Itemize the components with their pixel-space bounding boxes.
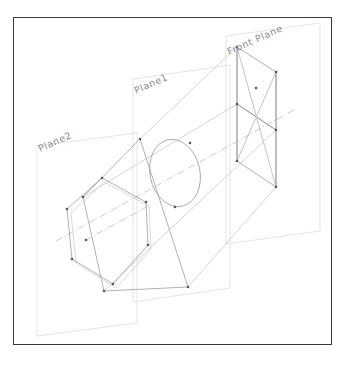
vertex-dot — [139, 138, 142, 141]
projection-ray-bottom — [188, 187, 276, 287]
vertex-dot — [71, 258, 74, 261]
vertex-dot — [174, 206, 177, 209]
tilted-quad-outline[interactable] — [83, 139, 188, 291]
vertex-dot — [236, 160, 239, 163]
projection-ray-right — [104, 130, 276, 291]
vertex-dot — [236, 103, 239, 106]
front-plane-geometry — [237, 47, 276, 187]
plane-outline-front-plane[interactable] — [226, 23, 320, 244]
front-plane-diagonal-b — [237, 72, 276, 161]
vertex-dot — [147, 244, 150, 247]
plane-label-plane2[interactable]: Plane2 — [36, 129, 73, 154]
vertex-dot — [275, 71, 278, 74]
vertex-dot — [82, 196, 85, 199]
plane-outlines-group — [37, 23, 320, 336]
vertex-dot — [101, 177, 104, 180]
hexagon-centerline — [86, 205, 150, 240]
vertex-dots-group — [66, 46, 278, 293]
vertex-dot — [255, 87, 258, 90]
projection-ray-top — [140, 47, 237, 139]
projection-axis-centerline — [56, 109, 296, 241]
vertex-dot — [66, 208, 69, 211]
isometric-scene: Front Plane Plane1 Plane2 — [0, 0, 350, 365]
plane2-geometry — [67, 178, 151, 288]
vertex-dot — [187, 286, 190, 289]
plane-label-front-plane[interactable]: Front Plane — [225, 22, 284, 56]
plane-label-plane1[interactable]: Plane1 — [132, 71, 169, 96]
plane-labels-group: Front Plane Plane1 Plane2 — [36, 22, 284, 153]
drawing-canvas: Front Plane Plane1 Plane2 — [0, 0, 350, 365]
vertex-dot — [189, 142, 192, 145]
vertex-dot — [112, 283, 115, 286]
projection-hexagon[interactable] — [67, 178, 148, 284]
plane-outline-plane2[interactable] — [37, 133, 137, 336]
vertex-dot — [275, 129, 278, 132]
vertex-dot — [145, 201, 148, 204]
projection-circle[interactable] — [143, 135, 206, 212]
vertex-dot — [103, 290, 106, 293]
vertex-dot — [275, 186, 278, 189]
vertex-dot — [85, 239, 88, 242]
